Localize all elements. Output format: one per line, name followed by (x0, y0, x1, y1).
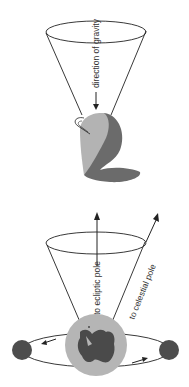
gravity-label: direction of gravity (91, 18, 101, 88)
right-orbiting-body (159, 340, 179, 360)
top-cone-left-edge (46, 33, 82, 115)
bottom-panel: to ecliptic pole to celestial pole (12, 212, 179, 376)
earth-landmass (78, 330, 115, 363)
orbit-motion-arrow-left-icon (41, 340, 47, 345)
earth-cone-rim (46, 232, 146, 254)
earth-small-island (88, 326, 90, 328)
ecliptic-pole-arrowhead-icon (94, 212, 100, 220)
top-panel: direction of gravity (46, 18, 146, 182)
earth-cone-left-edge (47, 245, 80, 322)
precession-diagram: direction of gravity to ecliptic pole to… (0, 0, 189, 387)
celestial-pole-label: to celestial pole (127, 262, 158, 320)
celestial-pole-arrow-shaft (146, 218, 157, 242)
top-cone-right-edge (111, 31, 146, 115)
gravity-arrowhead-icon (93, 104, 99, 110)
ecliptic-pole-label: to ecliptic pole (92, 261, 102, 315)
left-orbiting-body (12, 340, 32, 360)
orbit-motion-arrow-right-icon (142, 357, 148, 362)
